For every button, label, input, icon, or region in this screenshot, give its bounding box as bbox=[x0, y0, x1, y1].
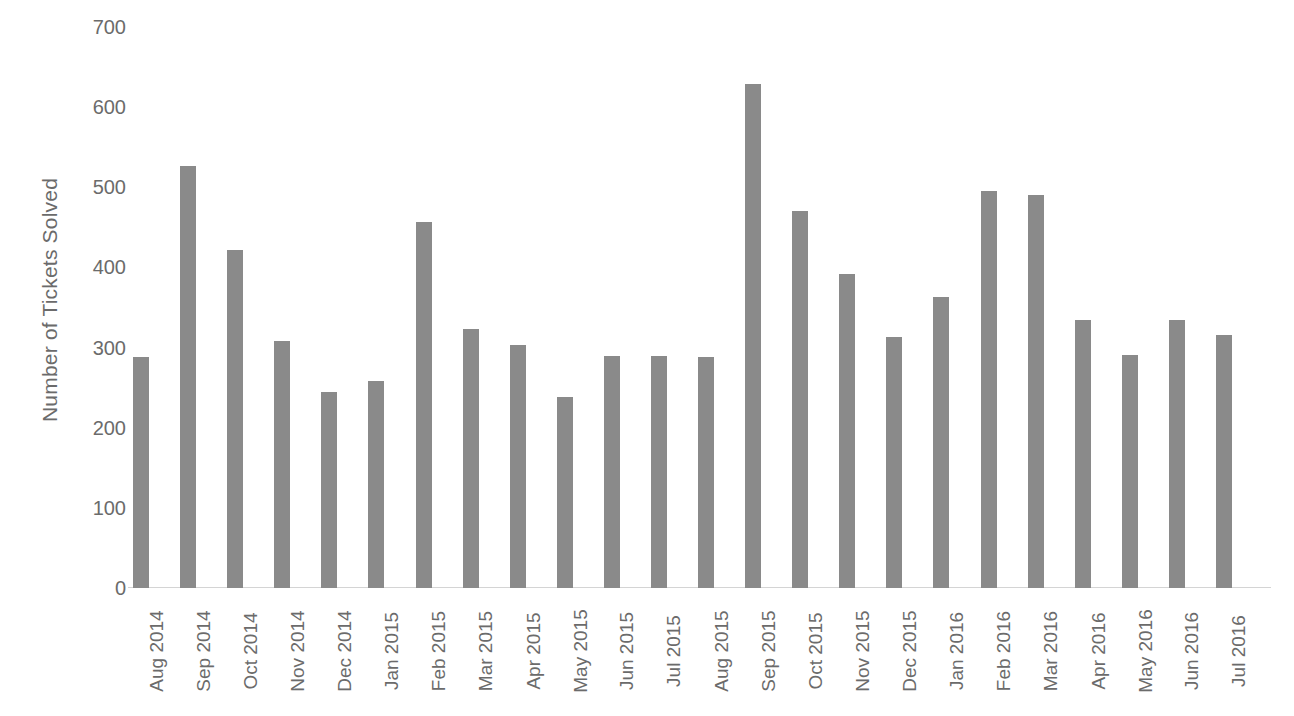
x-axis-tick-label: Nov 2015 bbox=[852, 610, 874, 691]
x-axis-tick-label: Nov 2014 bbox=[287, 610, 309, 691]
x-axis-tick-label: May 2015 bbox=[569, 609, 591, 692]
bar[interactable] bbox=[1216, 335, 1232, 588]
y-axis-tick-label: 600 bbox=[62, 96, 126, 119]
x-axis-tick: Sep 2014 bbox=[180, 596, 227, 714]
bar[interactable] bbox=[416, 222, 432, 588]
bar[interactable] bbox=[557, 397, 573, 588]
x-axis-tick-label: Aug 2015 bbox=[711, 610, 733, 691]
x-axis-tick: Nov 2015 bbox=[839, 596, 886, 714]
bar[interactable] bbox=[1122, 355, 1138, 588]
bar-slot bbox=[933, 27, 980, 588]
bar-slot bbox=[274, 27, 321, 588]
bar-slot bbox=[1216, 27, 1263, 588]
x-axis-tick-label: Jun 2016 bbox=[1181, 612, 1203, 690]
bar-chart: Number of Tickets Solved 700600500400300… bbox=[0, 0, 1294, 716]
x-axis-tick-label: Dec 2014 bbox=[334, 610, 356, 691]
x-axis-tick: Mar 2016 bbox=[1028, 596, 1075, 714]
bar[interactable] bbox=[1028, 195, 1044, 588]
x-axis-tick-label: Apr 2015 bbox=[522, 612, 544, 689]
bar-slot bbox=[698, 27, 745, 588]
x-axis-tick: Sep 2015 bbox=[745, 596, 792, 714]
bar-slot bbox=[1028, 27, 1075, 588]
bar-slot bbox=[321, 27, 368, 588]
plot-area bbox=[133, 27, 1263, 588]
x-axis-tick-label: Feb 2015 bbox=[428, 611, 450, 691]
bar-slot bbox=[416, 27, 463, 588]
x-axis-tick-label: Dec 2015 bbox=[899, 610, 921, 691]
bar-slot bbox=[180, 27, 227, 588]
y-axis-tick-label: 500 bbox=[62, 176, 126, 199]
y-axis-tick-label: 400 bbox=[62, 256, 126, 279]
x-axis-tick-label: Jul 2016 bbox=[1228, 615, 1250, 687]
bar-slot bbox=[886, 27, 933, 588]
x-axis-tick-label: Jan 2015 bbox=[381, 612, 403, 690]
x-axis-tick-label: Mar 2016 bbox=[1040, 611, 1062, 691]
bar-slot bbox=[227, 27, 274, 588]
x-axis-tick: Feb 2016 bbox=[981, 596, 1028, 714]
y-axis-tick-label: 700 bbox=[62, 16, 126, 39]
bar-slot bbox=[133, 27, 180, 588]
bar-slot bbox=[557, 27, 604, 588]
bar[interactable] bbox=[133, 357, 149, 588]
y-axis-tick-label: 300 bbox=[62, 336, 126, 359]
x-axis-tick-label: Sep 2015 bbox=[758, 610, 780, 691]
x-axis-tick: Oct 2015 bbox=[792, 596, 839, 714]
x-axis-tick: May 2016 bbox=[1122, 596, 1169, 714]
y-axis-tick-label: 100 bbox=[62, 496, 126, 519]
bar[interactable] bbox=[604, 356, 620, 588]
bar-slot bbox=[463, 27, 510, 588]
y-axis-tick-label: 0 bbox=[62, 577, 126, 600]
x-axis-tick-label: Jun 2015 bbox=[616, 612, 638, 690]
x-axis-tick: Nov 2014 bbox=[274, 596, 321, 714]
bar[interactable] bbox=[981, 191, 997, 589]
x-axis-tick-label: Mar 2015 bbox=[475, 611, 497, 691]
x-axis-tick: Jul 2016 bbox=[1216, 596, 1263, 714]
bar[interactable] bbox=[1075, 320, 1091, 588]
bar[interactable] bbox=[839, 274, 855, 588]
bar[interactable] bbox=[745, 84, 761, 588]
bar-slot bbox=[745, 27, 792, 588]
bar[interactable] bbox=[933, 297, 949, 588]
x-axis-tick: Mar 2015 bbox=[463, 596, 510, 714]
bar[interactable] bbox=[227, 250, 243, 588]
x-axis-tick-label: Sep 2014 bbox=[193, 610, 215, 691]
y-axis-tick-label: 200 bbox=[62, 416, 126, 439]
x-axis-tick-label: Oct 2015 bbox=[805, 612, 827, 689]
bar[interactable] bbox=[886, 337, 902, 588]
x-axis-tick-label: Oct 2014 bbox=[240, 612, 262, 689]
bar-slot bbox=[981, 27, 1028, 588]
bar-slot bbox=[510, 27, 557, 588]
bar-slot bbox=[1075, 27, 1122, 588]
x-axis-tick-label: Aug 2014 bbox=[146, 610, 168, 691]
bar[interactable] bbox=[321, 392, 337, 588]
bar-slot bbox=[1169, 27, 1216, 588]
x-axis-tick-label: Jan 2016 bbox=[946, 612, 968, 690]
x-axis-tick: Apr 2016 bbox=[1075, 596, 1122, 714]
bar[interactable] bbox=[698, 357, 714, 588]
bar[interactable] bbox=[792, 211, 808, 588]
bar-slot bbox=[604, 27, 651, 588]
x-axis-tick: Oct 2014 bbox=[227, 596, 274, 714]
x-axis-tick-label: May 2016 bbox=[1134, 609, 1156, 692]
x-axis-tick: Dec 2014 bbox=[321, 596, 368, 714]
x-axis-tick-labels: Aug 2014Sep 2014Oct 2014Nov 2014Dec 2014… bbox=[133, 596, 1263, 716]
x-axis-tick-label: Feb 2016 bbox=[993, 611, 1015, 691]
bar-slot bbox=[651, 27, 698, 588]
y-axis-title-label: Number of Tickets Solved bbox=[38, 178, 62, 422]
bar[interactable] bbox=[274, 341, 290, 588]
bar[interactable] bbox=[368, 381, 384, 588]
bar[interactable] bbox=[180, 166, 196, 588]
x-axis-tick: Aug 2014 bbox=[133, 596, 180, 714]
bar[interactable] bbox=[651, 356, 667, 588]
bar[interactable] bbox=[463, 329, 479, 588]
x-axis-tick: Jul 2015 bbox=[651, 596, 698, 714]
bar[interactable] bbox=[510, 345, 526, 588]
x-axis-tick-label: Apr 2016 bbox=[1087, 612, 1109, 689]
x-axis-tick: Aug 2015 bbox=[698, 596, 745, 714]
x-axis-tick-label: Jul 2015 bbox=[663, 615, 685, 687]
bar[interactable] bbox=[1169, 320, 1185, 588]
x-axis-tick: Dec 2015 bbox=[886, 596, 933, 714]
x-axis-tick: Feb 2015 bbox=[416, 596, 463, 714]
x-axis-tick: May 2015 bbox=[557, 596, 604, 714]
x-axis-tick: Jan 2015 bbox=[368, 596, 415, 714]
